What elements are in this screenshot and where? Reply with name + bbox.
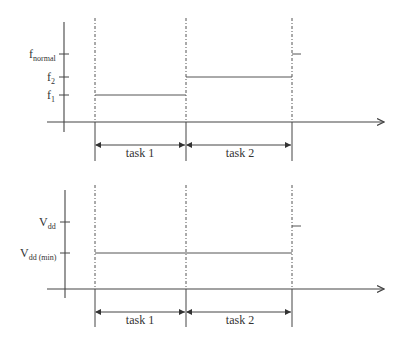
top-task1-label: task 1 (126, 146, 154, 160)
bottom-panel-voltage: Vdd Vdd (min) task 1 task 2 (20, 185, 384, 327)
label-f-normal: fnormal (29, 47, 56, 63)
top-panel-frequency: fnormal f2 f1 task 1 task 2 (29, 18, 384, 161)
label-f1: f1 (47, 88, 55, 104)
bottom-task2-label: task 2 (226, 313, 254, 327)
label-f2: f2 (47, 70, 55, 86)
bottom-task1-label: task 1 (126, 313, 154, 327)
top-task2-label: task 2 (226, 146, 254, 160)
frequency-voltage-diagram: fnormal f2 f1 task 1 task 2 Vdd Vdd (min… (0, 0, 406, 345)
label-vdd: Vdd (39, 215, 56, 231)
label-vdd-min: Vdd (min) (20, 246, 57, 262)
